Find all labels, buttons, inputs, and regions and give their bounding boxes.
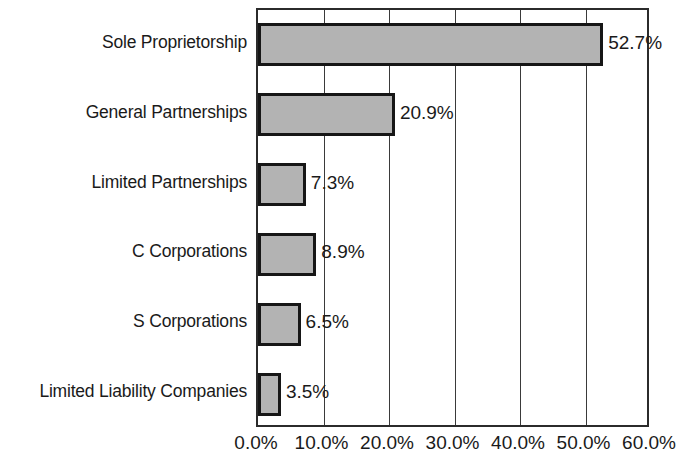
value-label-4: 6.5%: [306, 312, 349, 331]
value-label-1: 20.9%: [400, 103, 454, 122]
value-label-0: 52.7%: [608, 33, 662, 52]
xtick-label-4: 40.0%: [491, 433, 545, 452]
category-axis: Sole Proprietorship General Partnerships…: [0, 8, 247, 427]
category-label-4: S Corporations: [0, 313, 247, 331]
xtick-label-5: 50.0%: [557, 433, 611, 452]
value-axis: 0.0% 10.0% 20.0% 30.0% 40.0% 50.0% 60.0%: [256, 433, 649, 463]
category-label-2: Limited Partnerships: [0, 174, 247, 192]
xtick-label-3: 30.0%: [426, 433, 480, 452]
category-label-0: Sole Proprietorship: [0, 34, 247, 52]
category-label-5: Limited Liability Companies: [0, 383, 247, 401]
xtick-label-0: 0.0%: [234, 433, 277, 452]
xtick-label-2: 20.0%: [360, 433, 414, 452]
value-label-5: 3.5%: [286, 382, 329, 401]
category-label-3: C Corporations: [0, 243, 247, 261]
xtick-label-6: 60.0%: [622, 433, 676, 452]
category-label-1: General Partnerships: [0, 104, 247, 122]
value-label-2: 7.3%: [311, 173, 354, 192]
xtick-label-1: 10.0%: [295, 433, 349, 452]
value-labels: 52.7% 20.9% 7.3% 8.9% 6.5% 3.5%: [256, 8, 671, 427]
value-label-3: 8.9%: [321, 242, 364, 261]
